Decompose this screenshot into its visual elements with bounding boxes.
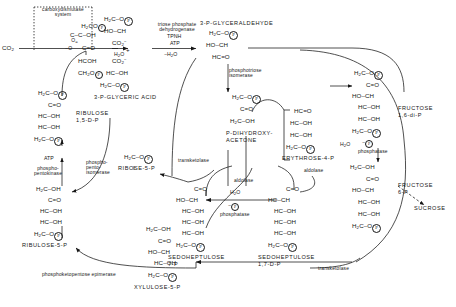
sed17dp-row-4: HC–OH — [274, 219, 296, 225]
fdp-row-1: H2C–OP — [354, 70, 383, 80]
carboxydismutase-system-label: carboxydismutase system — [42, 7, 84, 17]
sed7p-row-6: H2C–OP — [176, 242, 205, 252]
glyceraldehyde-row-1: H2C–OP — [209, 30, 238, 40]
sed7p-row-1: C=O — [194, 186, 207, 192]
erythrose4p-row-3: HC–OH — [290, 132, 312, 138]
glyceric-acid-right-row-3: H2C–OP — [100, 82, 129, 92]
compound-erythrose-4-phosphate: ERYTHROSE-4-P — [282, 156, 334, 162]
sed17dp-row-5: HC–OH — [274, 230, 296, 236]
cofactor-minus-h2o: −H2O — [164, 52, 177, 58]
compound-p-dihydroxyacetone: P-DIHYDROXY- ACETONE — [226, 130, 273, 144]
intermediate-row-6: CH2OP — [78, 70, 103, 79]
sed17dp-row-3: HC–OH — [274, 208, 296, 214]
xylulose5p-row-3: HO–CH — [148, 249, 170, 255]
ribulose5p-row-3: HC–OH — [40, 208, 62, 214]
intermediate-row-5: HCOH — [78, 58, 97, 64]
dhap-row-1: H2C–OP — [232, 94, 261, 104]
compound-3p-glyceric-acid: 3-P-GLYCERIC ACID — [94, 95, 157, 101]
glyceric-acid-left-row-1: H2C–OP — [104, 16, 133, 26]
rudp-row-2: C=O — [48, 102, 61, 108]
f6p-row-4: HC–OH — [358, 199, 380, 205]
rudp-row-5: H2C–OP — [34, 136, 63, 146]
dhap-row-3: H2C–OH — [230, 118, 255, 125]
plus-sign: + — [126, 47, 130, 53]
erythrose4p-row-4: H2C–OP — [286, 144, 315, 154]
ribulose5p-row-1: H2C–OH — [36, 186, 61, 193]
fdp-row-4: HC–OH — [358, 104, 380, 110]
compound-xylulose-5-phosphate: XYLULOSE-5-P — [134, 285, 181, 291]
cofactor-atp-top: ATP — [170, 41, 180, 46]
rudp-row-4: HC–OH — [38, 124, 60, 130]
rudp-row-1: H2C–OP — [38, 90, 67, 100]
compound-sucrose: SUCROSE — [414, 206, 446, 212]
enzyme-phosphatase-sedoheptulose: phosphatase — [220, 212, 250, 217]
compound-ribulose-5-phosphate: RIBULOSE-5-P — [22, 243, 67, 249]
intermediate-row-3: −O — [58, 39, 72, 58]
glyceric-acid-left-row-2: HO–CH — [104, 28, 126, 34]
compound-ribulose-15-diphosphate: RIBULOSE 1,5-D-P — [76, 110, 109, 125]
sed17dp-row-6: H2C–OP — [268, 242, 297, 252]
glyceraldehyde-row-3: HC=O — [212, 54, 230, 60]
compound-ribose-5-phosphate: RIBOSE-5-P — [118, 166, 155, 172]
sed17dp-row-1: C=O — [286, 186, 299, 192]
rudp-row-3: HC–OH — [38, 113, 60, 119]
f6p-row-6: H2C–OP — [352, 223, 381, 233]
enzyme-transketolase-mid: transketolase — [178, 158, 209, 163]
enzyme-transketolase-bottom: transketolase — [318, 266, 349, 271]
sed7p-row-3: HC–OH — [182, 208, 204, 214]
enzyme-phosphatase-fructose: phosphatase — [358, 149, 388, 154]
fdp-row-5: HC–OH — [358, 116, 380, 122]
compound-fructose-6-phosphate: FRUCTOSE 6-P — [398, 182, 433, 197]
cofactor-atp-left: ATP — [44, 156, 54, 161]
sed7p-row-5: HC–OH — [182, 230, 204, 236]
co2-input-label: CO2 — [2, 45, 14, 52]
ribulose5p-row-4: HC–OH — [40, 219, 62, 225]
glyceric-acid-right-row-2: HC–OH — [106, 70, 128, 76]
enzyme-aldolase-right: aldolase — [304, 168, 323, 173]
minus-p-sedoheptulose-label: −P — [228, 203, 239, 211]
f6p-row-5: HC–OH — [358, 211, 380, 217]
xylulose5p-row-2: C=O — [158, 238, 171, 244]
intermediate-row-4: C=O — [82, 45, 95, 51]
ribose5p-row-1: H2C–OP — [124, 154, 153, 164]
erythrose4p-row-1: HC=O — [294, 108, 312, 114]
f6p-row-3: HO–CH — [352, 187, 374, 193]
sed7p-row-2: HO–CH — [176, 197, 198, 203]
compound-3p-glyceraldehyde: 3-P-GLYCERALDEHYDE — [200, 21, 273, 27]
glyceraldehyde-row-2: HO–CH — [206, 42, 228, 48]
sed7p-row-4: HC–OH — [182, 219, 204, 225]
enzyme-phosphopentoisomerase: phospho- pento- isomerase — [86, 160, 122, 175]
xylulose5p-row-5: H2C–OP — [148, 272, 177, 282]
f6p-row-2: C=O — [366, 176, 379, 182]
h2o-sedoheptulose-label: H2O — [230, 190, 240, 196]
h2o-fructose-label: H2O — [340, 142, 350, 148]
sed17dp-row-2: HO–CH — [268, 197, 290, 203]
compound-sedoheptulose-17-diphosphate: SEDOHEPTULOSE 1,7-D-P — [258, 254, 315, 269]
cofactor-tpnh: TPNH — [167, 34, 181, 39]
enzyme-triose-phosphate-dehydrogenase: triose phosphate dehydrogenase — [155, 22, 199, 32]
glyceric-acid-right-row-1: CO2− — [112, 58, 127, 65]
xylulose5p-row-1: H2C–OH — [146, 226, 171, 233]
enzyme-phosphopentokinase: phospho- pentokinase — [24, 166, 72, 176]
compound-fructose-16-diphosphate: FRUCTOSE 1,6-di-P — [398, 105, 433, 120]
erythrose4p-row-2: HC–OH — [290, 120, 312, 126]
enzyme-phosphoketopentose-epimerase: phosphoketopentose epimerase — [42, 272, 116, 277]
calvin-cycle-diagram: carboxydismutase system CO2 H2COP O= C–C… — [0, 0, 456, 307]
fdp-row-3: HO–CH — [352, 93, 374, 99]
enzyme-phosphotriose-isomerase: phosphotriose isomerase — [229, 68, 271, 78]
dhap-row-2: C=O — [240, 106, 253, 112]
fdp-row-6: H2C–OP — [352, 128, 381, 138]
f6p-row-1: H2C–OH — [350, 164, 375, 171]
compound-sedoheptulose-7-phosphate: SEDOHEPTULOSE 7-P — [168, 254, 225, 269]
enzyme-aldolase-left: aldolase — [234, 178, 253, 183]
minus-p-fructose-label: −P — [362, 140, 373, 148]
ribulose5p-row-5: H2C–OP — [34, 231, 63, 241]
intermediate-row-2b: C–C–OH — [70, 32, 96, 38]
fdp-row-2: C=O — [366, 82, 379, 88]
ribulose5p-row-2: C=O — [48, 197, 61, 203]
glyceric-acid-left-row-3: CO2− — [112, 40, 127, 47]
